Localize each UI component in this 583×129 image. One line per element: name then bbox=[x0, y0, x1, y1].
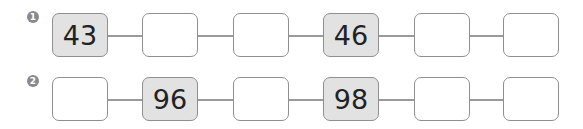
connector-line bbox=[289, 99, 323, 101]
circled-number-1-icon: 1 bbox=[27, 11, 39, 23]
number-box-blank[interactable] bbox=[52, 77, 108, 121]
connector-line bbox=[379, 35, 414, 37]
connector-line bbox=[289, 35, 323, 37]
connector-line bbox=[470, 99, 503, 101]
number-box-given: 46 bbox=[323, 13, 379, 57]
number-box-blank[interactable] bbox=[414, 77, 470, 121]
number-box-given: 96 bbox=[142, 77, 198, 121]
number-box-blank[interactable] bbox=[503, 13, 559, 57]
number-box-blank[interactable] bbox=[142, 13, 198, 57]
number-box-given: 98 bbox=[323, 77, 379, 121]
connector-line bbox=[198, 35, 233, 37]
number-box-blank[interactable] bbox=[233, 13, 289, 57]
number-box-given: 43 bbox=[52, 13, 108, 57]
connector-line bbox=[198, 99, 233, 101]
number-box-blank[interactable] bbox=[503, 77, 559, 121]
sequence-row-2: 2 96 98 bbox=[0, 77, 583, 123]
number-box-blank[interactable] bbox=[414, 13, 470, 57]
connector-line bbox=[108, 99, 142, 101]
connector-line bbox=[470, 35, 503, 37]
connector-line bbox=[108, 35, 142, 37]
circled-number-2-icon: 2 bbox=[27, 75, 39, 87]
number-box-blank[interactable] bbox=[233, 77, 289, 121]
connector-line bbox=[379, 99, 414, 101]
sequence-row-1: 1 43 46 bbox=[0, 13, 583, 59]
